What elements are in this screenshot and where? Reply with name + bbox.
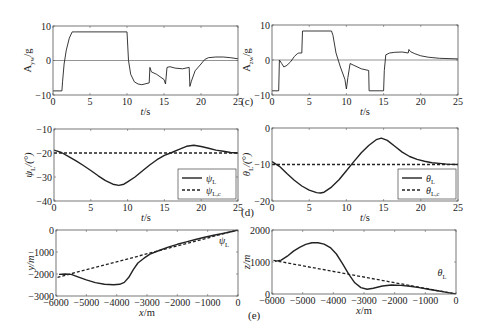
chart-c-left: 0510152025−10010t/sAyw/g <box>22 21 243 118</box>
x-tick-label: 20 <box>196 202 206 213</box>
svg-text:t/s: t/s <box>360 212 370 223</box>
x-tick-label: 20 <box>196 96 206 107</box>
x-tick-label: 0 <box>270 202 275 213</box>
svg-text:t/s: t/s <box>360 106 370 117</box>
x-tick-label: 20 <box>416 202 426 213</box>
y-tick-label: 0 <box>265 123 270 134</box>
x-tick-label: −4000 <box>104 297 130 308</box>
svg-text:t/s: t/s <box>141 106 151 117</box>
x-tick-label: 15 <box>379 96 389 107</box>
x-tick-label: 5 <box>88 202 93 213</box>
x-tick-label: 5 <box>307 96 312 107</box>
y-tick-label: 0 <box>265 55 270 66</box>
legend: ψLψL,c <box>178 169 236 199</box>
y-tick-label: 0 <box>46 55 51 66</box>
y-axis-label: ψL/(°) <box>23 152 36 177</box>
x-tick-label: 5 <box>88 96 93 107</box>
y-tick-label: −10 <box>254 159 270 170</box>
series-A-yw <box>53 32 238 91</box>
angle-annotation: ψL <box>219 235 229 248</box>
x-tick-label: 25 <box>453 96 463 107</box>
x-tick-label: 10 <box>341 202 351 213</box>
x-tick-label: −1000 <box>413 295 439 306</box>
panel-label-d: (d) <box>241 206 254 219</box>
y-tick-label: 0 <box>49 225 54 236</box>
y-tick-label: 2000 <box>250 225 270 236</box>
y-tick-label: −10 <box>36 124 52 135</box>
x-tick-label: 15 <box>159 96 169 107</box>
series-A-zw <box>272 31 458 91</box>
chart-d-left: 0510152025−40−30−20−10t/sψL/(°)ψLψL,c <box>23 124 243 224</box>
x-tick-label: 0 <box>51 96 56 107</box>
angle-annotation: θL <box>438 267 447 280</box>
x-tick-label: −1000 <box>195 297 221 308</box>
y-axis-label: Ayw/g <box>22 48 35 73</box>
svg-text:Ayw/g: Ayw/g <box>22 48 35 73</box>
series-trajectory <box>59 230 238 285</box>
x-tick-label: −6000 <box>259 295 285 306</box>
svg-text:θL/(°): θL/(°) <box>241 152 254 176</box>
x-tick-label: 10 <box>123 202 133 213</box>
x-tick-label: 0 <box>236 297 241 308</box>
y-tick-label: −10 <box>35 90 51 101</box>
x-axis-label: x/m <box>355 305 372 316</box>
x-axis-label: t/s <box>141 212 151 223</box>
x-tick-label: −2000 <box>165 297 191 308</box>
series-line-of-sight <box>58 230 239 277</box>
x-tick-label: 25 <box>453 202 463 213</box>
y-tick-label: −3000 <box>28 291 54 302</box>
panel-label-c: (c) <box>241 95 254 108</box>
x-tick-label: −4000 <box>321 295 347 306</box>
x-tick-label: 0 <box>454 295 459 306</box>
y-tick-label: 10 <box>41 21 51 32</box>
y-tick-label: 0 <box>265 289 270 300</box>
y-tick-label: −30 <box>36 172 52 183</box>
svg-text:ψL/(°): ψL/(°) <box>23 152 36 177</box>
svg-text:x/m: x/m <box>355 305 372 316</box>
y-axis-label: Azw/g <box>241 47 254 71</box>
legend: θLθL,c <box>398 169 456 199</box>
svg-text:x/m: x/m <box>138 307 155 318</box>
x-tick-label: 0 <box>52 202 57 213</box>
svg-text:Azw/g: Azw/g <box>241 47 254 71</box>
y-tick-label: −10 <box>254 90 270 101</box>
x-tick-label: 15 <box>379 202 389 213</box>
y-axis-label: θL/(°) <box>241 152 254 176</box>
y-axis-label: y/m <box>25 255 36 272</box>
axes-frame <box>56 230 238 296</box>
figure: 0510152025−10010t/sAyw/g0510152025−10010… <box>0 0 477 333</box>
y-tick-label: −20 <box>36 148 52 159</box>
y-tick-label: −20 <box>254 196 270 207</box>
x-tick-label: 10 <box>341 96 351 107</box>
x-axis-label: x/m <box>138 307 155 318</box>
y-tick-label: 1000 <box>250 257 270 268</box>
panel-label-e: (e) <box>248 309 261 322</box>
y-tick-label: 10 <box>260 20 270 31</box>
y-axis-label: z/m <box>241 254 252 270</box>
svg-text:z/m: z/m <box>241 254 252 270</box>
x-tick-label: −5000 <box>74 297 100 308</box>
chart-e-right: −6000−5000−4000−3000−2000−10000010002000… <box>241 225 459 317</box>
x-tick-label: 15 <box>159 202 169 213</box>
plots-container: 0510152025−10010t/sAyw/g0510152025−10010… <box>22 20 463 319</box>
chart-e-left: −6000−5000−4000−3000−2000−10000−3000−200… <box>25 225 241 319</box>
x-tick-label: 5 <box>307 202 312 213</box>
chart-c-right: 0510152025−10010t/sAzw/g <box>241 20 463 118</box>
x-axis-label: t/s <box>360 106 370 117</box>
x-axis-label: t/s <box>360 212 370 223</box>
svg-text:t/s: t/s <box>141 212 151 223</box>
chart-d-right: 0510152025−20−100t/sθL/(°)θLθL,c <box>241 123 463 224</box>
x-axis-label: t/s <box>141 106 151 117</box>
x-tick-label: 10 <box>122 96 132 107</box>
y-tick-label: −40 <box>36 196 52 207</box>
series-trajectory <box>275 243 456 294</box>
svg-text:y/m: y/m <box>25 255 36 272</box>
x-tick-label: 20 <box>416 96 426 107</box>
axes-frame <box>272 230 456 294</box>
x-tick-label: −5000 <box>290 295 316 306</box>
x-tick-label: −2000 <box>382 295 408 306</box>
x-tick-label: 0 <box>270 96 275 107</box>
